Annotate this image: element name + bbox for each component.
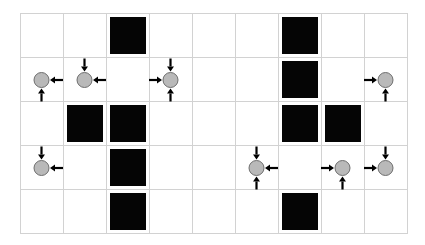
- node-circle: [163, 73, 178, 88]
- arrow-icon-from-bottom: [253, 177, 260, 190]
- obstacle-block: [325, 105, 361, 142]
- arrow-icon-from-top: [38, 147, 45, 160]
- node: [249, 147, 278, 190]
- node-circle: [335, 161, 350, 176]
- arrow-icon-from-top: [81, 59, 88, 72]
- grid-diagram: [0, 0, 425, 245]
- obstacle-block: [282, 17, 318, 54]
- obstacle-block: [282, 61, 318, 98]
- obstacle-blocks: [67, 17, 361, 230]
- arrow-icon-from-bottom: [167, 89, 174, 102]
- arrow-icon-from-bottom: [38, 89, 45, 102]
- node: [77, 59, 106, 88]
- node: [364, 147, 393, 176]
- node: [34, 147, 63, 176]
- arrow-icon-from-left: [149, 77, 162, 84]
- obstacle-block: [110, 149, 146, 186]
- node: [364, 73, 393, 102]
- node-circle: [378, 161, 393, 176]
- arrow-icon-from-right: [50, 77, 63, 84]
- arrow-icon-from-top: [167, 59, 174, 72]
- arrow-icon-from-bottom: [382, 89, 389, 102]
- arrow-icon-from-top: [382, 147, 389, 160]
- node-circle: [34, 161, 49, 176]
- obstacle-block: [67, 105, 103, 142]
- arrow-icon-from-left: [364, 77, 377, 84]
- arrow-icon-from-bottom: [339, 177, 346, 190]
- arrow-icon-from-top: [253, 147, 260, 160]
- arrow-icon-from-left: [321, 165, 334, 172]
- arrow-icon-from-right: [50, 165, 63, 172]
- obstacle-block: [110, 105, 146, 142]
- node: [34, 73, 63, 102]
- arrow-icon-from-right: [93, 77, 106, 84]
- node: [321, 161, 350, 190]
- node-circle: [249, 161, 264, 176]
- obstacle-block: [110, 17, 146, 54]
- node-circle: [77, 73, 92, 88]
- arrow-icon-from-left: [364, 165, 377, 172]
- obstacle-block: [110, 193, 146, 230]
- obstacle-block: [282, 193, 318, 230]
- obstacle-block: [282, 105, 318, 142]
- node: [149, 59, 178, 102]
- node-circle: [34, 73, 49, 88]
- arrow-icon-from-right: [265, 165, 278, 172]
- node-circle: [378, 73, 393, 88]
